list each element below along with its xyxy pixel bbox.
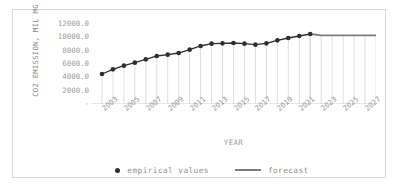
- empirical-series-markers: [100, 32, 313, 77]
- legend-item-forecast: forecast: [235, 166, 309, 175]
- y-axis-tick-label: 10000.0: [58, 33, 89, 41]
- data-point-marker: [176, 51, 181, 56]
- data-point-marker: [286, 36, 291, 41]
- legend-marker-dot-icon: [115, 168, 120, 173]
- plot-area: [91, 20, 376, 104]
- data-point-marker: [144, 57, 149, 62]
- data-point-marker: [187, 47, 192, 52]
- chart-plot-svg: [91, 20, 376, 104]
- y-axis-tick-label: 12000.0: [58, 20, 89, 28]
- y-axis-tick-label: 6000.0: [62, 60, 89, 68]
- data-point-marker: [209, 41, 214, 46]
- data-point-marker: [100, 72, 105, 77]
- data-point-marker: [165, 52, 170, 57]
- data-point-marker: [122, 63, 127, 68]
- y-axis-tick-label: 4000.0: [62, 73, 89, 81]
- data-point-marker: [154, 54, 159, 59]
- droplines-group: [102, 34, 376, 104]
- x-axis-title: YEAR: [91, 138, 376, 147]
- chart-frame: CO2 EMISSION, MIL MG 12000.010000.08000.…: [12, 9, 386, 178]
- x-axis-tick-labels: 2003200520072009201120132015201720192021…: [91, 106, 381, 136]
- chart-screenshot: CO2 EMISSION, MIL MG 12000.010000.08000.…: [0, 0, 399, 189]
- legend-label-empirical: empirical values: [127, 166, 209, 175]
- data-point-marker: [133, 60, 138, 65]
- legend-label-forecast: forecast: [268, 166, 309, 175]
- legend-line-icon: [235, 169, 261, 171]
- data-point-marker: [231, 41, 236, 46]
- data-point-marker: [242, 41, 247, 46]
- data-point-marker: [220, 41, 225, 46]
- data-point-marker: [111, 67, 116, 72]
- y-axis-tick-label: -: [85, 100, 89, 108]
- data-point-marker: [198, 44, 203, 49]
- data-point-marker: [308, 32, 313, 37]
- y-axis-tick-labels: 12000.010000.08000.06000.04000.02000.0-: [39, 15, 89, 107]
- data-point-marker: [264, 41, 269, 46]
- data-point-marker: [297, 34, 302, 39]
- y-axis-tick-label: 2000.0: [62, 87, 89, 95]
- chart-legend: empirical values forecast: [25, 161, 399, 179]
- legend-item-empirical: empirical values: [115, 166, 209, 175]
- data-point-marker: [275, 38, 280, 43]
- forecast-series-line: [310, 34, 376, 35]
- data-point-marker: [253, 42, 258, 47]
- y-axis-tick-label: 8000.0: [62, 47, 89, 55]
